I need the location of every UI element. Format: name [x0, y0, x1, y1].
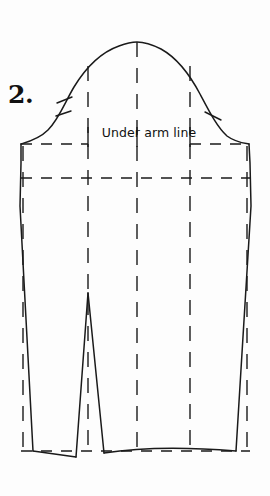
- sleeve-pattern-svg: [0, 0, 270, 496]
- pattern-diagram-page: 2. Under arm line: [0, 0, 270, 496]
- paper-background: [0, 0, 270, 496]
- under-arm-line-label: Under arm line: [94, 126, 204, 139]
- step-number: 2.: [8, 82, 33, 107]
